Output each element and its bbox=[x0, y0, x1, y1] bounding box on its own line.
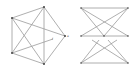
edge-a-c bbox=[44, 7, 65, 36]
edge-m2-b1 bbox=[81, 40, 99, 63]
edge-e-c bbox=[44, 36, 65, 64]
edge-b-c bbox=[12, 18, 65, 36]
node-a bbox=[43, 6, 45, 8]
edge-d-f bbox=[12, 39, 53, 53]
edge-b2-m1 bbox=[92, 40, 128, 63]
node-m1 bbox=[80, 35, 82, 37]
node-b2 bbox=[127, 62, 129, 64]
edge-a-d bbox=[12, 7, 44, 53]
edge-m2-b2 bbox=[108, 40, 128, 63]
node-b1 bbox=[80, 62, 82, 64]
edge-a-b bbox=[12, 7, 44, 18]
label-side: a bbox=[67, 34, 69, 38]
right-graph: a bbox=[67, 7, 129, 64]
diagram-canvas: f a bbox=[0, 0, 129, 73]
left-graph: f bbox=[11, 6, 66, 65]
edge-t1-m2 bbox=[81, 8, 104, 36]
node-m3 bbox=[127, 35, 129, 37]
node-t2 bbox=[127, 7, 129, 9]
node-b bbox=[11, 17, 13, 19]
node-m2 bbox=[103, 35, 105, 37]
edge-b1-m3 bbox=[81, 40, 117, 63]
node-c bbox=[64, 35, 66, 37]
label-f: f bbox=[52, 37, 54, 41]
edge-d-e bbox=[12, 53, 44, 64]
edge-t2-m2 bbox=[104, 8, 128, 36]
node-d bbox=[11, 52, 13, 54]
node-t1 bbox=[80, 7, 82, 9]
edge-b-e bbox=[12, 18, 44, 64]
node-e bbox=[43, 63, 45, 65]
